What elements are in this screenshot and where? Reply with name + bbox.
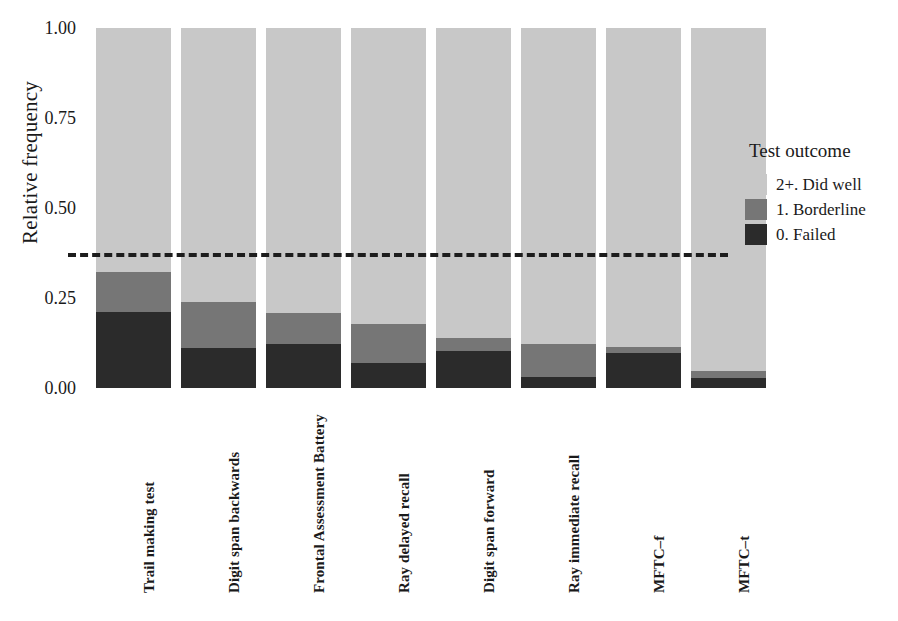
bar-segment[interactable]: [96, 272, 171, 312]
bar-segment[interactable]: [266, 313, 341, 344]
x-label-6: Ray immediate recall: [566, 455, 583, 593]
x-label-2: Digit span backwards: [226, 452, 243, 593]
bar-segment[interactable]: [521, 28, 596, 344]
bar-segment[interactable]: [606, 28, 681, 347]
legend-item-label: 1. Borderline: [776, 200, 866, 220]
x-label-8: MFTC–t: [736, 536, 753, 593]
bar-1[interactable]: [96, 28, 171, 388]
legend-item[interactable]: 1. Borderline: [745, 199, 895, 220]
bar-segment[interactable]: [521, 344, 596, 377]
legend-item[interactable]: 0. Failed: [745, 224, 895, 245]
plot-area: [96, 28, 731, 388]
bar-segment[interactable]: [351, 324, 426, 363]
bar-segment[interactable]: [266, 344, 341, 388]
bar-segment[interactable]: [691, 371, 766, 378]
bar-segment[interactable]: [351, 28, 426, 324]
bar-segment[interactable]: [266, 28, 341, 313]
bar-segment[interactable]: [181, 28, 256, 302]
legend-swatch-icon: [745, 199, 767, 220]
legend-items: 2+. Did well1. Borderline0. Failed: [745, 174, 895, 245]
x-label-4: Ray delayed recall: [396, 473, 413, 593]
legend-swatch-icon: [745, 174, 767, 195]
bar-segment[interactable]: [96, 28, 171, 272]
bar-segment[interactable]: [181, 348, 256, 388]
bar-4[interactable]: [351, 28, 426, 388]
bar-segment[interactable]: [606, 353, 681, 388]
legend: Test outcome 2+. Did well1. Borderline0.…: [745, 140, 895, 249]
bar-5[interactable]: [436, 28, 511, 388]
bar-segment[interactable]: [521, 377, 596, 388]
x-label-1: Trail making test: [141, 482, 158, 593]
legend-item[interactable]: 2+. Did well: [745, 174, 895, 195]
y-tick-label: 0.75: [14, 109, 76, 127]
bar-segment[interactable]: [691, 378, 766, 388]
y-tick-label: 1.00: [14, 19, 76, 37]
bar-segment[interactable]: [436, 338, 511, 351]
y-axis-tick-labels: 0.000.250.500.751.00: [14, 0, 76, 621]
bar-segment[interactable]: [181, 302, 256, 348]
bar-7[interactable]: [606, 28, 681, 388]
bar-segment[interactable]: [96, 312, 171, 388]
x-label-3: Frontal Assessment Battery: [311, 414, 328, 593]
legend-swatch-icon: [745, 224, 767, 245]
legend-item-label: 2+. Did well: [776, 175, 862, 195]
bar-3[interactable]: [266, 28, 341, 388]
legend-title: Test outcome: [749, 140, 895, 162]
y-tick-label: 0.00: [14, 379, 76, 397]
y-tick-label: 0.50: [14, 199, 76, 217]
x-label-7: MFTC–f: [651, 536, 668, 593]
bar-segment[interactable]: [436, 351, 511, 388]
bar-2[interactable]: [181, 28, 256, 388]
x-label-5: Digit span forward: [481, 470, 498, 593]
bar-segment[interactable]: [351, 363, 426, 388]
legend-item-label: 0. Failed: [776, 225, 836, 245]
bar-segment[interactable]: [436, 28, 511, 338]
threshold-dashed-line: [68, 253, 728, 257]
bar-6[interactable]: [521, 28, 596, 388]
y-tick-label: 0.25: [14, 289, 76, 307]
stacked-bar-chart: Relative frequency 0.000.250.500.751.00 …: [0, 0, 898, 621]
